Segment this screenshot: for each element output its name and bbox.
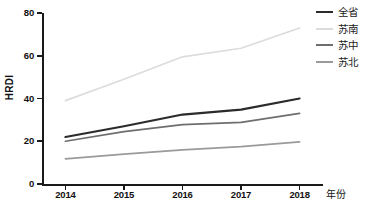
series-line-苏北: [65, 142, 299, 159]
series-line-苏南: [65, 28, 299, 101]
legend: 全省苏南苏中苏北: [316, 4, 383, 70]
legend-label: 苏中: [338, 40, 358, 51]
series-line-苏中: [65, 113, 299, 141]
legend-line-swatch: [316, 44, 333, 46]
legend-label: 苏北: [338, 57, 358, 68]
series-line-全省: [65, 99, 299, 137]
legend-item-全省[interactable]: 全省: [316, 4, 383, 21]
legend-line-swatch: [316, 28, 333, 30]
legend-line-swatch: [316, 61, 333, 63]
legend-item-苏南[interactable]: 苏南: [316, 21, 383, 38]
legend-line-swatch: [316, 11, 333, 13]
legend-label: 全省: [338, 7, 358, 18]
legend-item-苏中[interactable]: 苏中: [316, 37, 383, 54]
chart-container: HRDI 020406080 20142015201620172018 年份 全…: [0, 0, 383, 212]
legend-label: 苏南: [338, 24, 358, 35]
legend-item-苏北[interactable]: 苏北: [316, 54, 383, 71]
